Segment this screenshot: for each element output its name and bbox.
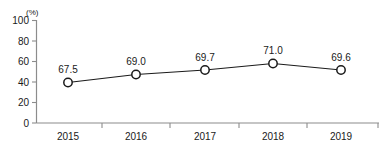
data-point-2018[interactable]: [269, 59, 277, 67]
data-label-2019: 69.6: [331, 52, 351, 63]
x-axis-tick-labels: 2015 2016 2017 2018 2019: [57, 131, 353, 142]
x-tick-label-2017: 2017: [194, 131, 217, 142]
data-point-2015[interactable]: [64, 78, 72, 86]
data-point-2019[interactable]: [337, 66, 345, 74]
x-tick-label-2019: 2019: [330, 131, 353, 142]
y-tick-label-20: 20: [18, 97, 30, 108]
data-point-2016[interactable]: [132, 70, 140, 78]
data-label-2015: 67.5: [58, 64, 78, 75]
y-tick-label-0: 0: [23, 118, 29, 129]
data-label-2018: 71.0: [263, 45, 283, 56]
x-tick-label-2018: 2018: [262, 131, 285, 142]
x-tick-label-2016: 2016: [125, 131, 148, 142]
y-tick-label-80: 80: [18, 36, 30, 47]
y-tick-label-60: 60: [18, 56, 30, 67]
y-axis-ticks: [32, 21, 37, 124]
series-markers: [64, 59, 345, 86]
chart-canvas: (%) 100 80 60 40 20 0: [0, 0, 390, 154]
x-tick-label-2015: 2015: [57, 131, 80, 142]
data-label-2017: 69.7: [195, 52, 215, 63]
y-axis-tick-labels: 100 80 60 40 20 0: [12, 15, 29, 129]
data-point-2017[interactable]: [201, 66, 209, 74]
y-tick-label-40: 40: [18, 77, 30, 88]
line-chart: (%) 100 80 60 40 20 0: [0, 0, 390, 154]
x-axis-ticks: [102, 123, 378, 128]
y-tick-label-100: 100: [12, 15, 29, 26]
data-label-2016: 69.0: [126, 56, 146, 67]
